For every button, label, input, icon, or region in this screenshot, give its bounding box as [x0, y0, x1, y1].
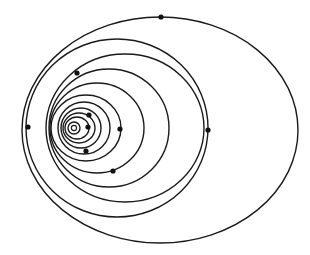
orbit-ellipse-9	[46, 54, 204, 202]
body-dot-icon	[83, 148, 88, 153]
body-dot-icon	[205, 127, 210, 132]
body-dot-icon	[85, 124, 90, 129]
orbit-ellipse-8	[49, 69, 169, 187]
body-dot-icon	[110, 168, 115, 173]
body-dot-icon	[74, 70, 79, 75]
orbit-ellipse-5	[58, 102, 110, 154]
body-dot-icon	[117, 126, 122, 131]
orbit-diagram	[0, 0, 310, 255]
orbit-paths	[22, 17, 298, 243]
body-dot-icon	[25, 124, 30, 129]
body-dot-icon	[158, 14, 163, 19]
body-dot-icon	[86, 112, 91, 117]
central-focus-icon	[71, 125, 76, 130]
orbit-ellipse-10	[26, 39, 208, 217]
